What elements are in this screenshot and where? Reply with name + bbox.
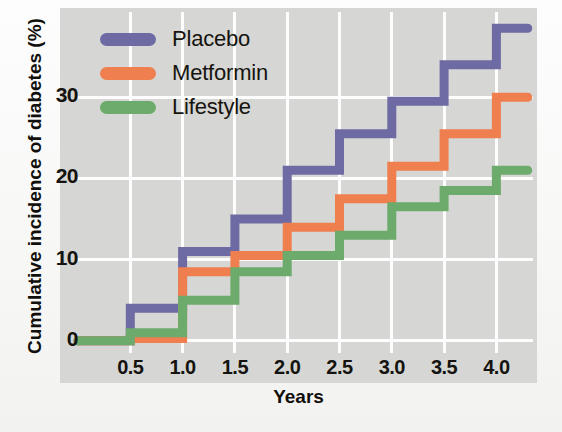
y-axis-label: Cumulative incidence of diabetes (%) [24, 6, 46, 366]
legend-swatch-lifestyle [100, 101, 156, 114]
legend-item: Lifestyle [100, 90, 330, 124]
legend-label: Metformin [172, 60, 268, 86]
legend-label: Lifestyle [172, 94, 251, 120]
x-tick-label: 3.0 [362, 356, 422, 379]
x-tick-label: 4.0 [466, 356, 526, 379]
legend-swatch-placebo [100, 33, 156, 46]
x-tick-label: 3.5 [414, 356, 474, 379]
x-tick-label: 0.5 [100, 356, 160, 379]
legend-swatch-metformin [100, 67, 156, 80]
x-tick-label: 2.5 [309, 356, 369, 379]
legend-item: Placebo [100, 22, 330, 56]
x-axis-label: Years [60, 386, 537, 408]
legend-item: Metformin [100, 56, 330, 90]
legend-label: Placebo [172, 26, 250, 52]
x-axis-ticks: 0.51.01.52.02.53.03.54.0 [60, 356, 537, 388]
x-tick-label: 1.0 [153, 356, 213, 379]
x-tick-label: 2.0 [257, 356, 317, 379]
chart-figure: 0102030 0.51.01.52.02.53.03.54.0 Years C… [0, 0, 562, 432]
chart-legend: PlaceboMetforminLifestyle [100, 22, 330, 124]
x-tick-label: 1.5 [205, 356, 265, 379]
series-line-lifestyle [78, 170, 528, 341]
